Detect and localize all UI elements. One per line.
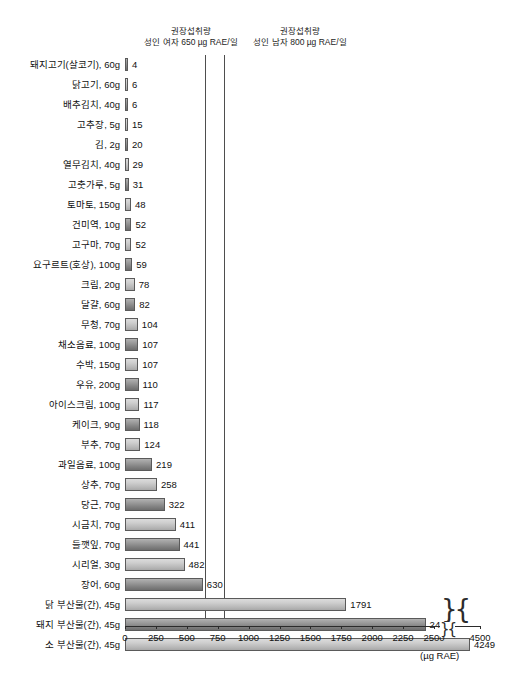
x-axis-tick-mark [341,626,342,629]
bar-row-label: 배추김치, 40g [63,95,120,115]
x-axis-unit-label: (µg RAE) [420,650,459,661]
bar-value-label: 6 [128,75,137,95]
bar-row-label: 닭고기, 60g [72,75,120,95]
bar-value-label: 117 [139,395,158,415]
bar-row-label: 고춧가루, 5g [68,175,120,195]
bar-row-label: 수박, 150g [76,355,120,375]
bar-row-label: 고구마, 70g [72,235,120,255]
bar-row-label: 요구르트(호상), 100g [33,255,120,275]
x-axis-tick-label: 0 [122,632,127,643]
bar-row: 닭고기, 60g6 [125,75,480,95]
x-axis-tick-mark [156,626,157,629]
bar [125,378,139,391]
bar-row-label: 케이크, 90g [72,415,120,435]
rda-male-annotation: 권장섭취량 성인 남자 800 µg RAE/일 [205,26,395,47]
bar-value-label: 15 [128,115,143,135]
bar-value-label: 1791 [346,595,371,615]
x-axis-tick-mark [187,626,188,629]
bar-value-label: 48 [131,195,146,215]
bar-row: 고춧가루, 5g31 [125,175,480,195]
bar-row: 요구르트(호상), 100g59 [125,255,480,275]
bar-value-label: 124 [140,435,160,455]
bar-row: 달걀, 60g82 [125,295,480,315]
bar-row-label: 건미역, 10g [72,215,120,235]
bar [125,398,139,411]
bar-row-label: 장어, 60g [81,575,120,595]
bar-row-label: 토마토, 150g [67,195,120,215]
bar-value-label: 20 [128,135,143,155]
bar [125,498,165,511]
x-axis-tick-mark [310,626,311,629]
bar-row-label: 시금치, 70g [72,515,120,535]
bar [125,518,176,531]
bar [125,358,138,371]
bar-row-label: 부추, 70g [81,435,120,455]
bar-row: 고추장, 5g15 [125,115,480,135]
axis-break-icon-lower: }{ [440,622,455,637]
x-axis-tick-label: 1250 [269,632,290,643]
bar-row: 시리얼, 30g482 [125,555,480,575]
bar-row-label: 돼지고기(살코기), 60g [30,55,120,75]
bar-row: 아이스크림, 100g117 [125,395,480,415]
bar-row: 장어, 60g630 [125,575,480,595]
bar [125,298,135,311]
bar-row: 배추김치, 40g6 [125,95,480,115]
bar-value-label: 258 [157,475,177,495]
bar-row-label: 과일음료, 100g [58,455,120,475]
bar-value-label: 78 [135,275,150,295]
bar [125,458,152,471]
x-axis-line [125,626,480,627]
bar-row: 건미역, 10g52 [125,215,480,235]
bar-row: 상추, 70g258 [125,475,480,495]
vitamin-a-content-bar-chart: 권장섭취량 성인 여자 650 µg RAE/일 권장섭취량 성인 남자 800… [0,0,511,690]
bar-row-label: 무청, 70g [81,315,120,335]
bar-row: 고구마, 70g52 [125,235,480,255]
plot-area: 돼지고기(살코기), 60g4닭고기, 60g6배추김치, 40g6고추장, 5… [125,55,480,626]
bar-value-label: 31 [129,175,144,195]
bar-row-label: 시리얼, 30g [72,555,120,575]
bar [125,278,135,291]
bar-row: 열무김치, 40g29 [125,155,480,175]
x-axis-tick-label: 250 [148,632,164,643]
bar-value-label: 52 [131,215,146,235]
bar-row: 토마토, 150g48 [125,195,480,215]
bar-row: 크림, 20g78 [125,275,480,295]
bar [125,558,185,571]
bar [125,478,157,491]
bar-rows: 돼지고기(살코기), 60g4닭고기, 60g6배추김치, 40g6고추장, 5… [125,55,480,655]
bar-row-label: 아이스크림, 100g [49,395,120,415]
bar [125,578,203,591]
x-axis-tick-label: 1750 [331,632,352,643]
bar-row-label: 김, 2g [95,135,120,155]
bar-value-label: 52 [131,235,146,255]
x-axis-tick-mark [218,626,219,629]
bar-row-label: 달걀, 60g [81,295,120,315]
bar-row-label: 돼지 부산물(간), 45g [36,615,120,635]
x-axis-tick-mark [372,626,373,629]
x-axis-tick-mark [280,626,281,629]
bar-row-label: 상추, 70g [81,475,120,495]
bar [125,338,138,351]
bar-row: 들깻잎, 70g441 [125,535,480,555]
bar-value-label: 219 [152,455,172,475]
x-axis-tick-mark [249,626,250,629]
bar-row: 부추, 70g124 [125,435,480,455]
bar-value-label: 411 [176,515,195,535]
bar [125,598,346,611]
bar-value-label: 110 [139,375,158,395]
bar-value-label: 630 [203,575,223,595]
bar-row: 과일음료, 100g219 [125,455,480,475]
bar-row: 당근, 70g322 [125,495,480,515]
bar [125,258,132,271]
bar-row-label: 고추장, 5g [77,115,120,135]
x-axis-tick-label: 2000 [362,632,383,643]
bar-row: 채소음료, 100g107 [125,335,480,355]
x-axis-tick-label: 1500 [300,632,321,643]
bar-row-label: 닭 부산물(간), 45g [45,595,120,615]
bar-row: 김, 2g20 [125,135,480,155]
x-axis-tick-mark [125,626,126,629]
bar-row: 우유, 200g110 [125,375,480,395]
bar [125,638,470,651]
bar-value-label: 4 [128,55,137,75]
bar [125,418,140,431]
